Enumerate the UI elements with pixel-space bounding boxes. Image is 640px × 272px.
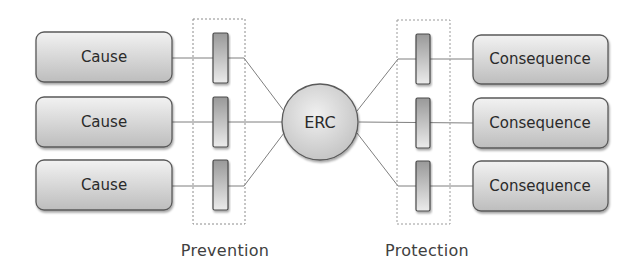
cause-box-3[interactable]: Cause bbox=[36, 160, 172, 210]
connector-consequence-1 bbox=[357, 59, 473, 111]
prevention-barrier-2[interactable] bbox=[213, 97, 228, 147]
consequence-label: Consequence bbox=[489, 50, 590, 68]
cause-label: Cause bbox=[81, 113, 127, 131]
cause-label: Cause bbox=[81, 176, 127, 194]
bowtie-diagram: Cause Cause Cause ERC Consequence Conseq… bbox=[0, 0, 640, 272]
consequence-box-2[interactable]: Consequence bbox=[473, 98, 608, 148]
protection-barrier-3[interactable] bbox=[416, 161, 430, 211]
protection-barrier-2[interactable] bbox=[416, 98, 430, 148]
protection-barrier-1[interactable] bbox=[416, 34, 430, 84]
connector-consequence-3 bbox=[357, 133, 473, 186]
consequence-label: Consequence bbox=[489, 114, 590, 132]
cause-box-2[interactable]: Cause bbox=[36, 97, 172, 147]
prevention-barrier-3[interactable] bbox=[213, 160, 228, 210]
consequence-box-3[interactable]: Consequence bbox=[473, 161, 608, 211]
consequence-box-1[interactable]: Consequence bbox=[473, 35, 608, 84]
protection-barriers bbox=[416, 34, 430, 211]
cause-box-1[interactable]: Cause bbox=[36, 32, 172, 82]
erc-label: ERC bbox=[304, 113, 336, 132]
prevention-barrier-1[interactable] bbox=[213, 33, 228, 83]
prevention-barriers bbox=[213, 33, 228, 210]
consequence-label: Consequence bbox=[489, 177, 590, 195]
cause-label: Cause bbox=[81, 48, 127, 66]
erc-node[interactable]: ERC bbox=[282, 84, 358, 160]
protection-connectors bbox=[357, 59, 473, 186]
prevention-label: Prevention bbox=[181, 241, 270, 260]
protection-label: Protection bbox=[385, 241, 469, 260]
